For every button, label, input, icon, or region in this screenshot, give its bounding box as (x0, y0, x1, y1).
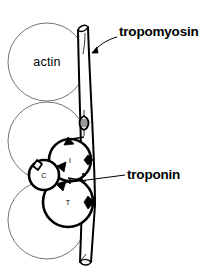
actin-label: actin (33, 55, 60, 69)
troponin-label: troponin (127, 167, 180, 182)
troponin-subunit-i-label: I (69, 157, 71, 164)
troponin-subunit-c-label: C (41, 172, 46, 179)
tropomyosin-label: tropomyosin (119, 24, 199, 39)
binding-marker-lens (80, 116, 89, 130)
thin-filament-diagram: C I T actin tropomyosin troponin (0, 0, 211, 274)
diagram-canvas: C I T actin tropomyosin troponin (0, 0, 211, 274)
tropomyosin-cap-bottom (80, 259, 91, 265)
troponin-subunit-t-label: T (66, 199, 71, 206)
